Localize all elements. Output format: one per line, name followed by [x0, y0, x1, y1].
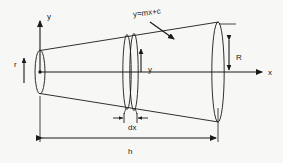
mid-radius-label: y: [148, 66, 152, 74]
x-axis-label: x: [268, 69, 272, 77]
dx-leader-left: [124, 108, 126, 114]
equation-leader-line: [150, 22, 174, 39]
small-radius-label: r: [14, 61, 17, 69]
diagram-canvas: y x r R y dx h y=mx+c: [0, 0, 283, 163]
equation-leader: [150, 22, 174, 39]
height-label: h: [128, 148, 132, 156]
cone-frustum-diagram: [0, 0, 283, 163]
y-axis-label: y: [47, 13, 51, 21]
lower-generator-line: [40, 94, 219, 123]
origin-point: [38, 70, 41, 73]
element-thickness-label: dx: [128, 124, 136, 132]
upper-generator-line: [40, 22, 219, 51]
large-radius-label: R: [236, 54, 242, 62]
